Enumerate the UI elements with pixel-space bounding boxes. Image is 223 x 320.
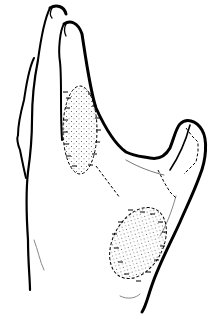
upper-graft	[63, 86, 97, 174]
hand-outline	[17, 6, 205, 312]
hand-illustration	[0, 0, 223, 320]
illustration	[0, 0, 223, 320]
lower-graft	[98, 198, 178, 289]
